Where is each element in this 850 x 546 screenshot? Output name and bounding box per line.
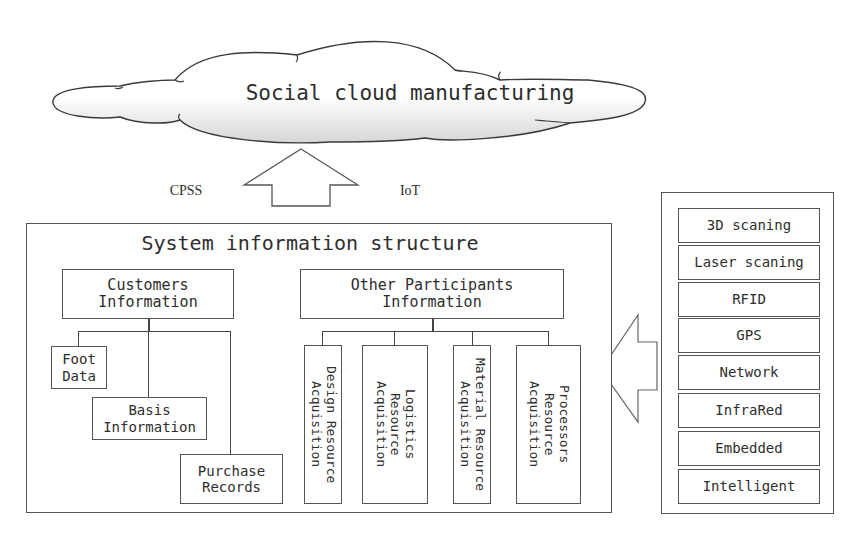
connector [78,331,79,346]
other-participants-box: Other Participants Information [300,269,564,319]
connector [322,331,323,345]
processors-resource-label: Processors Resource Acquisition [526,372,571,477]
customers-information-box: Customers Information [62,269,234,319]
other-participants-label: Other Participants Information [317,277,547,312]
cloud-label: Social cloud manufacturing [180,75,640,111]
purchase-records-box: Purchase Records [180,454,283,504]
tech-item: Network [678,355,820,390]
iot-label: IoT [390,180,430,202]
tech-item: Laser scaning [678,245,820,280]
tech-item-label: Network [719,364,778,380]
connector [472,331,473,345]
purchase-records-label: Purchase Records [192,463,272,495]
connector [322,331,549,332]
tech-item: GPS [678,318,820,353]
connector [548,331,549,345]
tech-item: 3D scaning [678,208,820,243]
logistics-resource-label: Logistics Resource Acquisition [373,372,418,477]
material-resource-label: Material Resource Acquisition [457,350,487,500]
design-resource-label: Design Resource Acquisition [308,350,338,500]
connector [148,331,149,397]
connector [432,319,434,331]
connector [78,331,231,332]
tech-item-label: 3D scaning [707,217,791,233]
basis-information-box: Basis Information [92,397,207,440]
tech-item-label: GPS [736,327,761,343]
connector [230,331,231,454]
processors-resource-box: Processors Resource Acquisition [516,345,581,504]
tech-item: Intelligent [678,469,820,504]
tech-item-label: InfraRed [715,402,782,418]
connector [148,319,150,331]
up-arrow-icon [244,149,358,206]
cpss-label: CPSS [160,180,212,202]
tech-item: RFID [678,282,820,317]
system-structure-title: System information structure [80,228,540,258]
tech-item-label: Embedded [715,440,782,456]
basis-information-label: Basis Information [100,402,200,434]
material-resource-box: Material Resource Acquisition [453,345,491,504]
customers-information-label: Customers Information [88,277,208,312]
connector [394,331,395,345]
tech-item: InfraRed [678,393,820,428]
logistics-resource-box: Logistics Resource Acquisition [362,345,428,504]
figure-caption-clipped [140,536,640,546]
tech-item-label: Laser scaning [694,254,804,270]
tech-item: Embedded [678,431,820,466]
tech-item-label: RFID [732,291,766,307]
tech-item-label: Intelligent [703,478,796,494]
foot-data-box: Foot Data [51,346,107,389]
foot-data-label: Foot Data [59,351,99,383]
design-resource-box: Design Resource Acquisition [304,345,342,504]
